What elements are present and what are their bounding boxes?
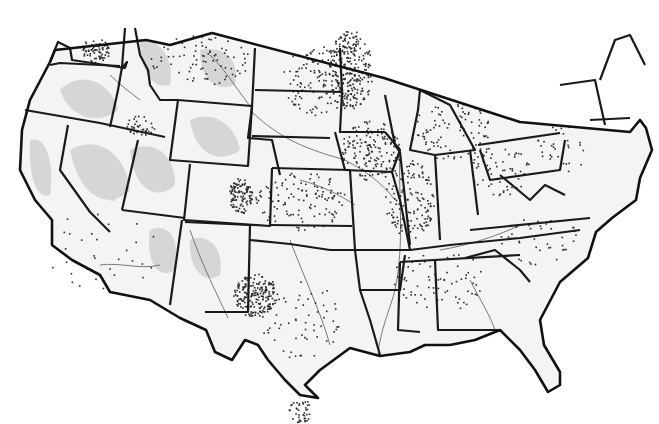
- data-dot: [207, 78, 209, 80]
- data-dot: [408, 212, 410, 214]
- data-dot: [266, 290, 268, 292]
- data-dot: [361, 175, 363, 177]
- data-dot: [295, 338, 297, 340]
- data-dot: [352, 90, 354, 92]
- data-dot: [547, 243, 549, 245]
- data-dot: [235, 210, 237, 212]
- data-dot: [237, 301, 239, 303]
- data-dot: [368, 160, 370, 162]
- data-dot: [407, 199, 409, 201]
- data-dot: [355, 45, 357, 47]
- data-dot: [580, 164, 582, 166]
- data-dot: [552, 127, 554, 129]
- data-dot: [373, 144, 375, 146]
- data-dot: [245, 279, 247, 281]
- data-dot: [528, 164, 530, 166]
- data-dot: [292, 214, 294, 216]
- data-dot: [238, 299, 240, 301]
- data-dot: [323, 46, 325, 48]
- data-dot: [375, 164, 377, 166]
- data-dot: [244, 198, 246, 200]
- data-dot: [237, 210, 239, 212]
- data-dot: [344, 47, 346, 49]
- data-dot: [244, 292, 246, 294]
- data-dot: [295, 355, 297, 357]
- data-dot: [491, 183, 493, 185]
- data-dot: [321, 187, 323, 189]
- data-dot: [300, 355, 302, 357]
- data-dot: [326, 111, 328, 113]
- data-dot: [242, 307, 244, 309]
- data-dot: [151, 123, 153, 125]
- data-dot: [176, 38, 178, 40]
- data-dot: [358, 126, 360, 128]
- data-dot: [347, 95, 349, 97]
- data-dot: [267, 187, 269, 189]
- data-dot: [256, 199, 258, 201]
- data-dot: [251, 195, 253, 197]
- data-dot: [302, 221, 304, 223]
- data-dot: [540, 145, 542, 147]
- data-dot: [338, 38, 340, 40]
- data-dot: [330, 61, 332, 63]
- data-dot: [330, 192, 332, 194]
- data-dot: [392, 209, 394, 211]
- data-dot: [321, 96, 323, 98]
- data-dot: [427, 210, 429, 212]
- data-dot: [411, 194, 413, 196]
- data-dot: [202, 55, 204, 57]
- data-dot: [394, 170, 396, 172]
- data-dot: [308, 418, 310, 420]
- data-dot: [367, 53, 369, 55]
- data-dot: [550, 228, 552, 230]
- data-dot: [340, 36, 342, 38]
- data-dot: [476, 167, 478, 169]
- data-dot: [430, 129, 432, 131]
- data-dot: [364, 69, 366, 71]
- data-dot: [245, 283, 247, 285]
- data-dot: [254, 314, 256, 316]
- data-dot: [134, 124, 136, 126]
- data-dot: [344, 38, 346, 40]
- data-dot: [332, 70, 334, 72]
- data-dot: [508, 154, 510, 156]
- data-dot: [438, 114, 440, 116]
- data-dot: [434, 120, 436, 122]
- data-dot: [313, 324, 315, 326]
- data-dot: [357, 89, 359, 91]
- data-dot: [236, 184, 238, 186]
- data-dot: [393, 152, 395, 154]
- data-dot: [348, 41, 350, 43]
- data-dot: [310, 82, 312, 84]
- data-dot: [360, 103, 362, 105]
- data-dot: [297, 84, 299, 86]
- data-dot: [365, 162, 367, 164]
- data-dot: [417, 134, 419, 136]
- data-dot: [309, 207, 311, 209]
- data-dot: [295, 71, 297, 73]
- data-dot: [419, 200, 421, 202]
- data-dot: [254, 287, 256, 289]
- data-dot: [275, 221, 277, 223]
- data-dot: [273, 287, 275, 289]
- data-dot: [406, 280, 408, 282]
- data-dot: [291, 404, 293, 406]
- data-dot: [510, 168, 512, 170]
- data-dot: [477, 156, 479, 158]
- data-dot: [336, 213, 338, 215]
- data-dot: [343, 153, 345, 155]
- data-dot: [259, 303, 261, 305]
- data-dot: [144, 116, 146, 118]
- data-dot: [511, 233, 513, 235]
- data-dot: [307, 401, 309, 403]
- data-dot: [242, 184, 244, 186]
- data-dot: [427, 183, 429, 185]
- data-dot: [379, 151, 381, 153]
- data-dot: [195, 50, 197, 52]
- data-dot: [345, 93, 347, 95]
- data-dot: [478, 132, 480, 134]
- data-dot: [145, 134, 147, 136]
- data-dot: [236, 304, 238, 306]
- data-dot: [339, 44, 341, 46]
- data-dot: [323, 80, 325, 82]
